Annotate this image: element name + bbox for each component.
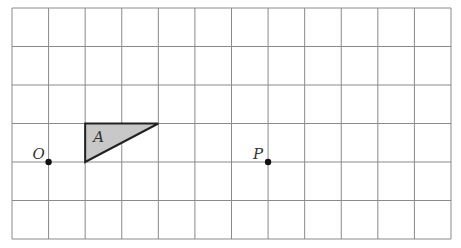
triangle-label: A bbox=[91, 128, 104, 146]
grid-diagram: A O P bbox=[0, 0, 461, 248]
point-o-label: O bbox=[33, 145, 45, 163]
point-o bbox=[45, 159, 51, 165]
point-p bbox=[265, 159, 271, 165]
grid-lines bbox=[12, 8, 451, 239]
point-p-label: P bbox=[252, 145, 264, 163]
